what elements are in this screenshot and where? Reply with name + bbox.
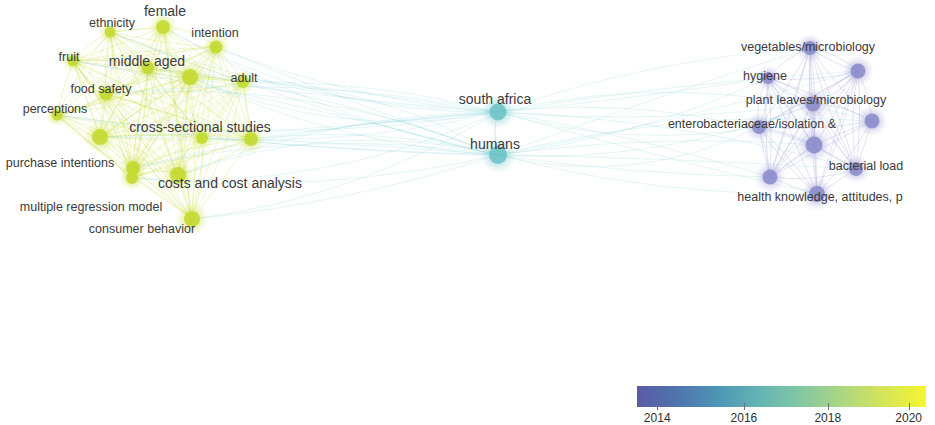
network-node-cross-sectional-studies[interactable] [196, 132, 208, 144]
network-node-hub-c[interactable] [244, 132, 258, 146]
legend-tick-2016 [744, 403, 745, 410]
legend-tick-2018 [828, 403, 829, 410]
network-node-perceptions[interactable] [52, 110, 63, 121]
legend-year-2020: 2020 [895, 411, 922, 425]
legend-year-2018: 2018 [814, 411, 841, 425]
legend-tick-2020 [909, 403, 910, 410]
network-node-adult[interactable] [237, 76, 249, 88]
legend-year-2014: 2014 [644, 411, 671, 425]
network-node-food-safety[interactable] [100, 88, 113, 101]
vosviewer-map-canvas[interactable]: femaleethnicityintentionfruitmiddle aged… [0, 0, 935, 425]
network-node-humans[interactable] [489, 146, 507, 164]
network-node-node-left-lower[interactable] [763, 170, 778, 185]
network-node-vegetables-microbiology[interactable] [803, 41, 817, 55]
network-node-middle-aged[interactable] [142, 62, 155, 75]
network-node-node-center-lower[interactable] [806, 137, 823, 154]
network-node-hygiene[interactable] [762, 72, 774, 84]
legend-year-2016: 2016 [731, 411, 758, 425]
network-node-node-top-right[interactable] [851, 64, 866, 79]
network-node-south-africa[interactable] [490, 104, 507, 121]
network-node-enterobacteriaceae-isolation[interactable] [752, 120, 766, 134]
network-node-ethnicity[interactable] [105, 27, 116, 38]
network-node-hub-a[interactable] [182, 69, 198, 85]
network-node-costs-and-cost-analysis[interactable] [170, 167, 186, 183]
legend-tick-2014 [657, 403, 658, 410]
network-node-intention[interactable] [210, 41, 223, 54]
network-node-node-mid-right[interactable] [865, 114, 880, 129]
network-graph [0, 0, 935, 425]
network-node-fruit[interactable] [68, 56, 79, 67]
network-node-plant-leaves-microbiology[interactable] [806, 97, 821, 112]
network-node-consumer-behavior[interactable] [184, 211, 200, 227]
network-node-health-knowledge[interactable] [809, 186, 825, 202]
network-node-hub-b[interactable] [92, 129, 108, 145]
year-color-legend: 2014201620182020 [637, 386, 926, 425]
network-node-multiple-regression-model[interactable] [126, 172, 138, 184]
network-node-bacterial-load[interactable] [849, 162, 863, 176]
legend-gradient-bar [637, 386, 926, 407]
network-node-female[interactable] [156, 20, 170, 34]
